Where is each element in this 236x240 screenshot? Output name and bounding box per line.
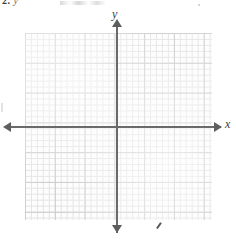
header-smudge: [60, 1, 106, 5]
scan-edge-speck: [1, 103, 3, 112]
x-axis-arrow-right-icon: [214, 122, 222, 132]
worksheet-page: 2. y x y: [0, 0, 236, 240]
problem-variable: y: [14, 0, 19, 6]
x-axis-arrow-left-icon: [3, 122, 11, 132]
problem-header: 2. y: [2, 0, 18, 6]
problem-number: 2.: [2, 0, 11, 6]
y-axis: [116, 22, 118, 233]
x-axis-label: x: [225, 118, 230, 130]
x-axis: [5, 126, 221, 128]
y-axis-label: y: [112, 8, 117, 20]
y-axis-arrow-down-icon: [112, 225, 122, 233]
stray-pencil-mark: [156, 222, 162, 228]
header-speck: [198, 4, 200, 6]
